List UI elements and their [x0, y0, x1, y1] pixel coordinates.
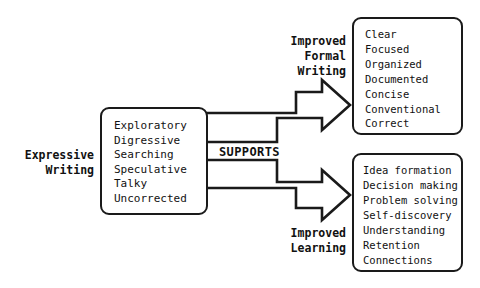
list-item: Correct: [365, 116, 441, 131]
list-item: Self-discovery: [363, 208, 458, 223]
list-item: Decision making: [363, 178, 458, 193]
list-item: Retention: [363, 238, 458, 253]
box-improved-learning: Idea formation Decision making Problem s…: [352, 153, 463, 272]
list-item: Idea formation: [363, 163, 458, 178]
source-label-expressive-writing: Expressive Writing: [8, 148, 94, 178]
list-item: Understanding: [363, 223, 458, 238]
target-label-improved-learning: Improved Learning: [262, 226, 346, 256]
improved-learning-attribute-list: Idea formation Decision making Problem s…: [363, 163, 458, 268]
formal-writing-attribute-list: Clear Focused Organized Documented Conci…: [365, 27, 441, 131]
arrow-to-improved-learning: [205, 160, 350, 220]
target-label-improved-formal-writing: Improved Formal Writing: [262, 34, 346, 79]
list-item: Documented: [365, 72, 441, 87]
box-expressive-writing-traits: Exploratory Digressive Searching Specula…: [100, 107, 208, 215]
list-item: Conventional: [365, 102, 441, 117]
list-item: Organized: [365, 57, 441, 72]
list-item: Connections: [363, 253, 458, 268]
arrow-to-formal-writing: [205, 80, 350, 142]
list-item: Exploratory: [114, 119, 187, 134]
list-item: Clear: [365, 27, 441, 42]
connector-label-supports: SUPPORTS: [219, 145, 280, 160]
list-item: Searching: [114, 148, 187, 163]
list-item: Speculative: [114, 163, 187, 178]
list-item: Digressive: [114, 134, 187, 149]
list-item: Focused: [365, 42, 441, 57]
list-item: Uncorrected: [114, 192, 187, 207]
diagram-canvas: Expressive Writing Exploratory Digressiv…: [0, 0, 480, 288]
list-item: Concise: [365, 87, 441, 102]
list-item: Talky: [114, 177, 187, 192]
expressive-writing-trait-list: Exploratory Digressive Searching Specula…: [114, 119, 187, 207]
box-improved-formal-writing: Clear Focused Organized Documented Conci…: [352, 17, 463, 135]
list-item: Problem solving: [363, 193, 458, 208]
